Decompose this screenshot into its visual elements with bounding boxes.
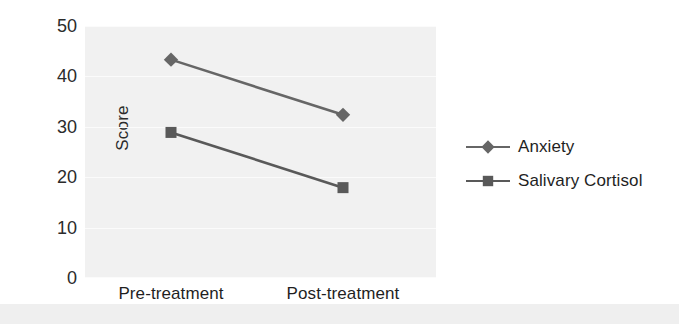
series-segment [171, 132, 343, 187]
data-point-square[interactable] [338, 182, 349, 193]
y-tick-label-50: 50 [37, 16, 77, 37]
plot-area: 0 10 20 30 40 50 Score Pre-treatment Pos… [85, 26, 436, 278]
x-tick-label-pre-treatment: Pre-treatment [118, 284, 223, 304]
series-line-anxiety [164, 52, 350, 122]
chart-figure: 0 10 20 30 40 50 Score Pre-treatment Pos… [0, 0, 679, 324]
chart-legend: Anxiety Salivary Cortisol [466, 130, 671, 198]
x-tick-label-post-treatment: Post-treatment [287, 284, 400, 304]
legend-entry-anxiety[interactable]: Anxiety [466, 130, 671, 164]
y-tick-label-30: 30 [37, 116, 77, 137]
series-plot [85, 26, 436, 278]
legend-label-anxiety: Anxiety [510, 137, 574, 157]
legend-label-salivary-cortisol: Salivary Cortisol [510, 171, 643, 191]
y-tick-label-20: 20 [37, 167, 77, 188]
data-point-diamond[interactable] [164, 52, 178, 66]
legend-entry-salivary-cortisol[interactable]: Salivary Cortisol [466, 164, 671, 198]
series-line-salivary-cortisol [166, 127, 349, 193]
data-point-square[interactable] [166, 127, 177, 138]
scan-artifact-strip [0, 304, 679, 324]
y-tick-label-10: 10 [37, 217, 77, 238]
series-segment [171, 60, 343, 115]
y-tick-label-40: 40 [37, 66, 77, 87]
data-point-diamond[interactable] [336, 108, 350, 122]
legend-marker-diamond-icon [466, 137, 510, 157]
y-axis-tick-layer: 0 10 20 30 40 50 [37, 26, 85, 278]
y-tick-label-0: 0 [37, 268, 77, 289]
legend-marker-square-icon [466, 171, 510, 191]
